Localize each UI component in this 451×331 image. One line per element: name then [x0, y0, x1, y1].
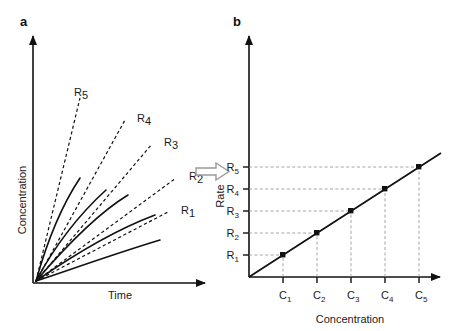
data-point-c4: [382, 186, 387, 191]
panel-a-x-axis-label: Time: [108, 289, 132, 301]
figure-background: [0, 0, 451, 331]
panel-b-letter: b: [233, 14, 241, 29]
panel-b-y-axis-label: Rate: [214, 184, 226, 207]
panel-a-y-axis-label: Concentration: [16, 166, 28, 235]
figure-container: a Concentration Time: [0, 0, 451, 331]
data-point-c3: [348, 208, 353, 213]
data-point-c1: [280, 252, 285, 257]
panel-b-x-axis-label: Concentration: [316, 313, 385, 325]
panel-a-letter: a: [20, 14, 28, 29]
data-point-c5: [416, 164, 421, 169]
data-point-c2: [314, 230, 319, 235]
figure-svg: a Concentration Time: [0, 0, 451, 331]
